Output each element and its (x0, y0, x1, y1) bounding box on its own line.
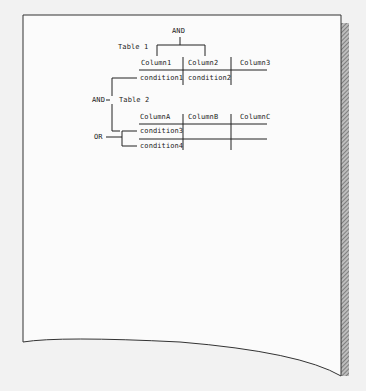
table1-title: Table 1 (118, 43, 148, 51)
table2-columnA: ColumnA (140, 113, 170, 121)
table2-columnC: ColumnC (240, 113, 270, 121)
or-operator: OR (94, 133, 103, 141)
table2-condition4: condition4 (140, 142, 183, 150)
page-shadow (341, 23, 349, 376)
page-outline (23, 15, 341, 376)
table2-columnB: ColumnB (188, 113, 218, 121)
table2-condition3: condition3 (140, 127, 183, 135)
diagram-canvas (0, 0, 366, 391)
table1-column2: Column2 (188, 59, 218, 67)
top-and-operator: AND (172, 27, 185, 35)
table1-column1: Column1 (141, 59, 171, 67)
table1-column3: Column3 (240, 59, 270, 67)
table1-condition1: condition1 (140, 74, 183, 82)
table1-condition2: condition2 (188, 74, 231, 82)
left-and-operator: AND (92, 96, 105, 104)
table2-title: Table 2 (119, 96, 149, 104)
